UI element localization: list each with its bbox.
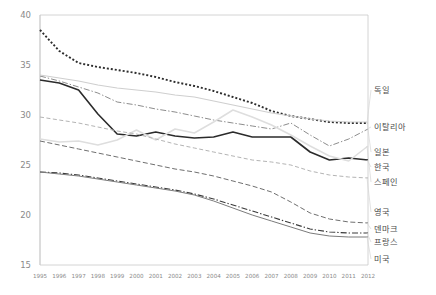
- y-tick-label: 15: [20, 260, 31, 270]
- x-tick-label: 2003: [187, 273, 202, 279]
- x-tick-label: 1998: [91, 273, 106, 279]
- series-line: [40, 76, 368, 146]
- x-tick-label: 2005: [226, 273, 241, 279]
- x-tick-label: 1995: [33, 273, 48, 279]
- x-tick-label: 2007: [264, 273, 279, 279]
- x-tick-label: 2006: [245, 273, 260, 279]
- legend-label: 한국: [374, 162, 390, 172]
- series-line: [40, 172, 368, 237]
- x-tick-label: 2009: [303, 273, 318, 279]
- series-line: [40, 110, 368, 161]
- x-tick-label: 2004: [207, 273, 222, 279]
- legend-label: 일본: [374, 147, 390, 157]
- x-tick-label: 2002: [168, 273, 182, 279]
- x-tick-label: 1999: [110, 273, 125, 279]
- chart-canvas: 152025303540 199519961997199819992000200…: [0, 0, 436, 295]
- series-line: [40, 172, 368, 233]
- series-line: [40, 117, 368, 178]
- y-axis: 152025303540: [20, 10, 40, 270]
- y-tick-label: 30: [20, 110, 31, 120]
- x-tick-label: 1996: [52, 273, 67, 279]
- legend-label: 미국: [374, 254, 390, 264]
- x-tick-label: 2011: [342, 273, 357, 279]
- y-tick-label: 20: [20, 210, 31, 220]
- legend-label: 덴마크: [374, 224, 398, 234]
- x-tick-label: 2000: [129, 273, 144, 279]
- x-tick-label: 1997: [71, 273, 86, 279]
- x-tick-label: 2001: [149, 273, 164, 279]
- series-line: [40, 30, 368, 123]
- series-line: [40, 141, 368, 223]
- x-tick-label: 2012: [361, 273, 375, 279]
- x-axis: 1995199619971998199920002001200220032004…: [33, 273, 375, 279]
- legend-label: 프랑스: [374, 237, 398, 247]
- legend: 독일이탈리아일본한국스페인영국덴마크프랑스미국: [374, 85, 406, 264]
- legend-label: 영국: [374, 207, 390, 217]
- line-chart: 152025303540 199519961997199819992000200…: [0, 0, 436, 295]
- y-tick-label: 40: [20, 10, 31, 20]
- x-tick-label: 2008: [284, 273, 299, 279]
- series-layer: [40, 30, 368, 237]
- legend-label: 독일: [374, 85, 390, 95]
- x-tick-label: 2010: [322, 273, 337, 279]
- y-tick-label: 35: [20, 60, 31, 70]
- legend-label: 이탈리아: [374, 122, 406, 132]
- series-line: [40, 75, 368, 122]
- y-tick-label: 25: [20, 160, 31, 170]
- plot-frame: [40, 15, 368, 265]
- legend-label: 스페인: [374, 177, 398, 187]
